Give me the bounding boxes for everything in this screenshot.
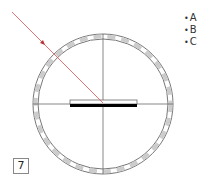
legend-item-b: B: [184, 24, 197, 36]
mirror-outline: [70, 100, 137, 104]
figure-number: 7: [13, 158, 29, 174]
legend: A B C: [184, 12, 197, 48]
mirror: [70, 104, 137, 107]
legend-item-c: C: [184, 36, 197, 48]
incident-ray: [12, 12, 103, 103]
legend-item-a: A: [184, 12, 197, 24]
optics-diagram: [0, 0, 199, 190]
